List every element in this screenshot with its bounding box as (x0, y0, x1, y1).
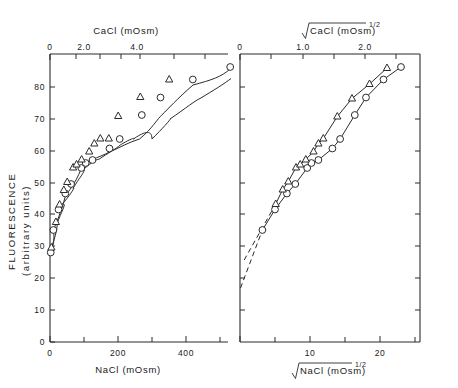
right-panel-y-ticks-right (415, 87, 420, 310)
left-panel-bottom-ticks (50, 336, 220, 342)
right-top-tick-label-1: 1.0 (296, 42, 310, 52)
y-axis-title-line2: (arbitrary units) (20, 185, 31, 276)
right-panel-top-tick-labels: 0 1.0 2.0 (237, 42, 371, 52)
top-tick-label-0: 0 (47, 42, 52, 52)
y-tick-label-80: 80 (34, 82, 45, 92)
left-panel-bottom-tick-labels: 0 200 400 (47, 348, 194, 358)
dual-panel-scatter-chart: FLUORESCENCE (arbitrary units) (0, 0, 458, 388)
right-panel-bottom-ticks (240, 336, 415, 342)
y-axis-title-line1: FLUORESCENCE (6, 173, 17, 270)
y-tick-label-50: 50 (34, 178, 45, 188)
right-panel-cacl-markers (272, 64, 391, 207)
left-panel: 0 10 20 30 40 50 60 70 80 0 (34, 25, 233, 375)
right-panel-bottom-tick-labels: 10 20 (305, 348, 386, 358)
right-panel: 0 1.0 2.0 CaCl (mOsm) 1/2 10 20 (237, 21, 420, 379)
left-panel-top-tick-labels: 0 2.0 4.0 (47, 42, 143, 52)
left-panel-top-axis-title: CaCl (mOsm) (93, 25, 159, 36)
y-axis-title: FLUORESCENCE (arbitrary units) (6, 173, 31, 276)
left-panel-bottom-axis-title: NaCl (mOsm) (95, 364, 161, 375)
y-tick-label-0: 0 (40, 337, 45, 347)
right-panel-top-axis-title-exponent: 1/2 (369, 21, 381, 28)
left-panel-y-ticks (50, 87, 55, 342)
y-tick-label-10: 10 (34, 305, 45, 315)
right-panel-y-ticks-left (240, 87, 245, 310)
top-tick-label-4: 4.0 (130, 42, 144, 52)
right-panel-nacl-extrapolation (241, 230, 263, 288)
right-panel-bottom-axis-title-exponent: 1/2 (355, 361, 367, 368)
left-panel-top-ticks (50, 54, 205, 60)
right-bottom-tick-label-10: 10 (305, 348, 316, 358)
left-panel-y-tick-labels: 0 10 20 30 40 50 60 70 80 (34, 82, 45, 347)
left-panel-cacl-markers (48, 76, 173, 251)
bottom-tick-label-0: 0 (47, 348, 52, 358)
right-top-tick-label-0: 0 (237, 42, 242, 52)
right-panel-nacl-markers (259, 64, 404, 234)
right-top-tick-label-2: 2.0 (358, 42, 372, 52)
right-panel-bottom-axis-title: NaCl (mOsm) 1/2 (292, 361, 367, 379)
right-panel-top-ticks (240, 54, 396, 60)
bottom-tick-label-400: 400 (178, 348, 194, 358)
right-panel-top-axis-title: CaCl (mOsm) 1/2 (302, 21, 381, 39)
y-tick-label-30: 30 (34, 241, 45, 251)
right-panel-top-axis-title-radicand: CaCl (mOsm) (310, 25, 376, 36)
y-tick-label-20: 20 (34, 273, 45, 283)
right-bottom-tick-label-20: 20 (375, 348, 386, 358)
top-tick-label-2: 2.0 (77, 42, 91, 52)
y-tick-label-60: 60 (34, 146, 45, 156)
y-tick-label-40: 40 (34, 209, 45, 219)
bottom-tick-label-200: 200 (110, 348, 126, 358)
figure-container: FLUORESCENCE (arbitrary units) (0, 0, 458, 388)
y-tick-label-70: 70 (34, 114, 45, 124)
